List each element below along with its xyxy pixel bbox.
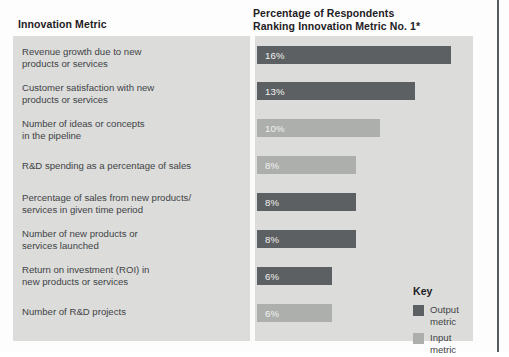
column-header-line-2: Ranking Innovation Metric No. 1* — [253, 20, 420, 33]
legend-swatch-input-icon — [413, 333, 424, 344]
metric-label-row-3: Number of ideas or concepts in the pipel… — [22, 118, 246, 141]
metric-label-line-1: Revenue growth due to new — [22, 46, 246, 58]
bar-value-label: 10% — [265, 123, 285, 134]
metric-label-row-8: Number of R&D projects — [22, 306, 246, 318]
legend-entry-output: Output metric — [413, 304, 483, 327]
metric-label-line-1: Number of ideas or concepts — [22, 118, 246, 130]
bar-row-8: 6% — [257, 304, 332, 322]
bar-value-label: 13% — [265, 86, 285, 97]
legend-entry-input: Input metric — [413, 332, 483, 355]
bar-row-6: 8% — [257, 230, 356, 248]
right-border-rule — [497, 0, 499, 352]
bar-row-5: 8% — [257, 193, 356, 211]
bar-value-label: 8% — [265, 234, 279, 245]
bar-row-3: 10% — [257, 119, 380, 137]
legend-entry-output-label: Output metric — [430, 304, 459, 327]
metric-label-line-2: in the pipeline — [22, 130, 246, 142]
bar-row-7: 6% — [257, 267, 332, 285]
bar-value-label: 6% — [265, 271, 279, 282]
metric-label-line-1: Percentage of sales from new products/ — [22, 192, 246, 204]
metric-label-column: Revenue growth due to new products or se… — [13, 36, 250, 341]
bar-value-label: 8% — [265, 197, 279, 208]
bar-value-label: 6% — [265, 308, 279, 319]
legend-label-line-1: Input — [430, 332, 456, 344]
legend-title: Key — [413, 285, 483, 297]
metric-label-line-2: services in given time period — [22, 204, 246, 216]
metric-label-line-2: services launched — [22, 240, 246, 252]
legend-label-line-2: metric — [430, 316, 459, 328]
metric-label-line-2: products or services — [22, 58, 246, 70]
metric-label-row-2: Customer satisfaction with new products … — [22, 82, 246, 105]
metric-label-line-2: new products or services — [22, 276, 246, 288]
legend-swatch-output-icon — [413, 305, 424, 316]
metric-label-line-1: R&D spending as a percentage of sales — [22, 160, 246, 172]
legend-label-line-2: metric — [430, 344, 456, 356]
metric-label-row-5: Percentage of sales from new products/ s… — [22, 192, 246, 215]
metric-label-row-6: Number of new products or services launc… — [22, 228, 246, 251]
legend-entry-input-label: Input metric — [430, 332, 456, 355]
metric-label-line-2: products or services — [22, 94, 246, 106]
legend: Key Output metric Input metric — [413, 285, 483, 357]
metric-label-line-1: Customer satisfaction with new — [22, 82, 246, 94]
metric-label-line-1: Return on investment (ROI) in — [22, 264, 246, 276]
column-header-innovation-metric: Innovation Metric — [18, 18, 107, 30]
column-header-line-1: Percentage of Respondents — [253, 7, 420, 20]
bar-value-label: 8% — [265, 160, 279, 171]
bar-row-4: 8% — [257, 156, 356, 174]
metric-label-line-1: Number of R&D projects — [22, 306, 246, 318]
bar-row-2: 13% — [257, 82, 415, 100]
metric-label-row-7: Return on investment (ROI) in new produc… — [22, 264, 246, 287]
chart-panel: Revenue growth due to new products or se… — [13, 36, 473, 341]
metric-label-row-1: Revenue growth due to new products or se… — [22, 46, 246, 69]
bar-value-label: 16% — [265, 50, 285, 61]
metric-label-row-4: R&D spending as a percentage of sales — [22, 160, 246, 172]
legend-label-line-1: Output — [430, 304, 459, 316]
metric-label-line-1: Number of new products or — [22, 228, 246, 240]
bar-row-1: 16% — [257, 46, 451, 64]
column-header-percentage-respondents: Percentage of Respondents Ranking Innova… — [253, 7, 420, 33]
